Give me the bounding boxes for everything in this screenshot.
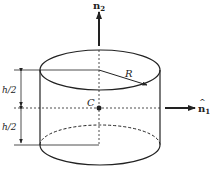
half-height-bottom-label: h/2 — [2, 122, 17, 132]
bottom-ellipse-back — [40, 125, 160, 145]
center-point — [97, 106, 102, 111]
n2-label: n2 — [93, 0, 105, 13]
cylinder-diagram: n2 ^ n1 R C h/2 h/2 — [0, 0, 212, 169]
radius-line — [99, 70, 147, 85]
half-height-top-label: h/2 — [2, 85, 17, 95]
radius-label: R — [124, 68, 133, 79]
center-label: C — [87, 97, 95, 108]
n1-label: n1 — [198, 103, 210, 116]
bottom-ellipse-front — [40, 145, 160, 165]
